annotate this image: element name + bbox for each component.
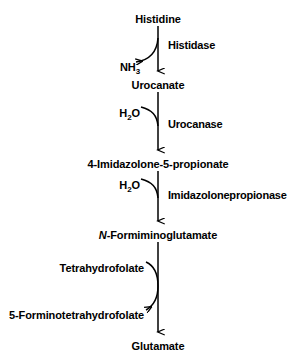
n-prefix: N xyxy=(99,229,107,241)
ammonia-subscript: 3 xyxy=(136,67,140,76)
curve-tetrahydrofolate-in xyxy=(146,262,158,286)
cofactor-water-imidazolonepropionase: H2O xyxy=(119,180,140,191)
curve-forminotetrahydrofolate-out xyxy=(146,286,158,310)
cofactor-tetrahydrofolate: Tetrahydrofolate xyxy=(60,263,144,274)
cofactor-5-forminotetrahydrofolate: 5-Forminotetrahydrofolate xyxy=(9,310,144,321)
metabolite-urocanate: Urocanate xyxy=(132,80,185,91)
metabolite-histidine: Histidine xyxy=(135,14,181,25)
water-o: O xyxy=(132,179,140,191)
water-o: O xyxy=(132,107,140,119)
enzyme-imidazolonepropionase: Imidazolonepropionase xyxy=(168,190,287,201)
water-h: H xyxy=(119,179,127,191)
metabolite-n-formiminoglutamate: N-Formiminoglutamate xyxy=(99,230,217,241)
enzyme-urocanase: Urocanase xyxy=(168,119,222,130)
metabolite-glutamate: Glutamate xyxy=(132,341,185,352)
curve-h2o-in-imidazolonepropionase xyxy=(141,179,158,198)
cofactor-water-urocanase: H2O xyxy=(119,108,140,119)
pathway-arrows xyxy=(0,0,289,358)
water-h: H xyxy=(119,107,127,119)
ammonia-symbol: NH xyxy=(120,61,136,73)
enzyme-histidase: Histidase xyxy=(168,40,215,51)
curve-h2o-in-urocanase xyxy=(141,107,158,126)
cofactor-ammonia: NH3 xyxy=(120,62,140,73)
formiminoglutamate-rest: -Formiminoglutamate xyxy=(107,229,218,241)
metabolite-4-imidazolone-5-propionate: 4-Imidazolone-5-propionate xyxy=(87,159,228,170)
curve-nh3-out xyxy=(136,38,158,62)
pathway-diagram: Histidine Urocanate 4-Imidazolone-5-prop… xyxy=(0,0,289,358)
